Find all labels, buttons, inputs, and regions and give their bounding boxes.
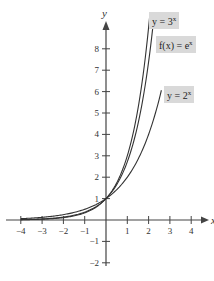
x-tick-label: −1 [80, 226, 90, 236]
y-axis-label: y [101, 7, 107, 19]
y-axis-arrow-icon [103, 21, 110, 30]
curve-2x [21, 90, 162, 218]
y-tick-label: 2 [95, 172, 100, 182]
label-2x: y = 2x [164, 86, 194, 103]
y-tick-label: 8 [95, 44, 100, 54]
y-tick-label: 4 [95, 129, 100, 139]
label-3x: y = 3x [149, 12, 179, 29]
y-tick-label: −1 [89, 236, 99, 246]
x-tick-label: 2 [146, 226, 151, 236]
curve-3x [21, 17, 150, 220]
x-tick-label: 1 [125, 226, 130, 236]
y-tick-label: −2 [89, 258, 99, 268]
label-ex: f(x) = ex [156, 36, 196, 53]
x-tick-label: −3 [37, 226, 47, 236]
y-tick-label: 3 [95, 151, 100, 161]
x-tick-label: 3 [168, 226, 173, 236]
y-tick-label: 7 [95, 65, 100, 75]
x-tick-label: −4 [16, 226, 26, 236]
y-tick-label: 5 [95, 108, 100, 118]
curve-ex [21, 27, 153, 220]
y-tick-label: 1 [95, 194, 100, 204]
x-axis-label: x [210, 214, 214, 226]
curves [21, 17, 162, 220]
x-tick-label: 4 [189, 226, 194, 236]
x-axis-arrow-icon [201, 217, 209, 224]
x-tick-label: −2 [59, 226, 69, 236]
y-tick-label: 6 [95, 87, 100, 97]
